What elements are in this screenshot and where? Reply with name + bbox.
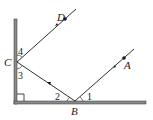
reflection-diagram: D A C B 4 3 2 1 [0,0,153,120]
angle-1-arc [80,97,83,101]
ray-bc [17,62,75,101]
label-a: A [123,59,131,71]
ray-cd [17,9,76,62]
label-angle-4: 4 [18,46,23,57]
right-angle-mark [17,94,24,101]
label-angle-2: 2 [55,91,60,102]
horizontal-mirror [14,101,146,104]
diagram-canvas: D A C B 4 3 2 1 [0,0,153,120]
vertical-mirror [14,19,17,104]
label-d: D [56,11,65,23]
label-b: B [71,105,78,117]
angle-2-arc [67,97,70,101]
angle-3-arc [17,66,22,69]
label-angle-1: 1 [87,91,92,102]
label-angle-3: 3 [18,70,23,81]
label-c: C [4,56,12,68]
